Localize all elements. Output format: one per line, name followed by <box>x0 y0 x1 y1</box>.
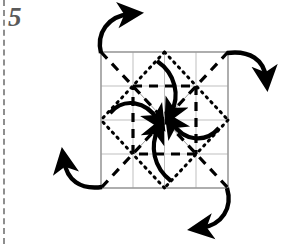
outer-arrow-top-left <box>100 14 130 53</box>
outer-arrow-bottom-left <box>64 161 102 188</box>
outer-arrow-bottom-right <box>201 188 229 228</box>
origami-fold-diagram <box>0 0 282 244</box>
diagram-page: 5 <box>0 0 282 244</box>
outer-arrow-top-right <box>227 52 266 78</box>
